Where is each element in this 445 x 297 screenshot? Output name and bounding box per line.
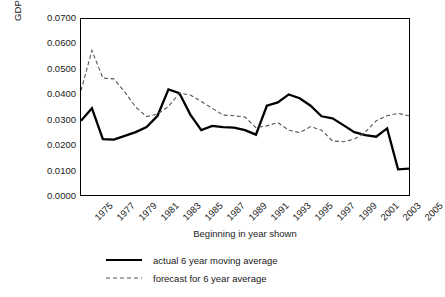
x-tick-label: 1979 [136,200,159,223]
x-tick-label: 2003 [400,200,423,223]
legend-swatch-dashed [105,273,143,283]
x-axis-title: Beginning in year shown [80,228,410,239]
x-tick-label: 1983 [180,200,203,223]
x-tick-label: 1997 [334,200,357,223]
legend-item-actual: actual 6 year moving average [105,252,365,268]
x-tick-label: 1989 [246,200,269,223]
legend-swatch-solid [105,255,143,265]
chart-legend: actual 6 year moving average forecast fo… [105,252,365,288]
x-tick-label: 1981 [158,200,181,223]
x-tick-label: 1987 [224,200,247,223]
x-tick-label: 1977 [114,200,137,223]
x-tick-label: 2005 [422,200,445,223]
legend-label-actual: actual 6 year moving average [153,255,278,266]
x-tick-label: 1995 [312,200,335,223]
x-tick-label: 1985 [202,200,225,223]
legend-item-forecast: forecast for 6 year average [105,270,365,286]
x-tick-label: 1999 [356,200,379,223]
legend-label-forecast: forecast for 6 year average [153,273,267,284]
x-tick-label: 2001 [378,200,401,223]
x-tick-label: 1991 [268,200,291,223]
x-tick-label: 1975 [92,200,115,223]
x-tick-label: 1993 [290,200,313,223]
